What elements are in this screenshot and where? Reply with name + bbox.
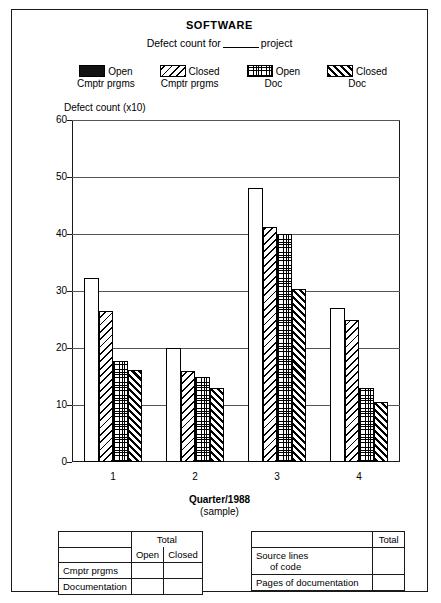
legend-sublabel-3: Doc <box>348 78 366 89</box>
plot-wrapper: 0102030405060 1234 <box>72 120 400 462</box>
bar-open-doc-q2[interactable] <box>195 377 210 463</box>
table-row-header-subcols: Open Closed <box>59 547 203 563</box>
x-tick-label-4: 4 <box>330 471 388 482</box>
chart-page-frame: SOFTWARE Defect count forproject Open Cm… <box>11 9 428 592</box>
bar-closed-doc-q4[interactable] <box>374 402 389 462</box>
legend-sublabel-2: Doc <box>264 78 282 89</box>
x-tick-label-1: 1 <box>84 471 142 482</box>
table-row-header-total: Total <box>59 532 203 548</box>
x-axis-sublabel: (sample) <box>12 506 427 517</box>
legend-sublabel-1: Cmptr prgms <box>161 78 219 89</box>
bar-group-quarter-1: 1 <box>84 120 142 462</box>
bar-group-quarter-3: 3 <box>248 120 306 462</box>
y-tick-label-50: 50 <box>56 172 67 182</box>
legend-sublabel-0: Cmptr prgms <box>77 78 135 89</box>
chart-title: SOFTWARE <box>12 19 427 31</box>
x-tick-label-3: 3 <box>248 471 306 482</box>
y-tick-label-20: 20 <box>56 343 67 353</box>
bar-open-doc-q3[interactable] <box>277 234 292 462</box>
summary-table-size: Total Source lines of code Pages of docu… <box>251 531 405 591</box>
y-tick-label-40: 40 <box>56 229 67 239</box>
table-right-row-0-label: Source lines of code <box>252 548 373 575</box>
chart-header: SOFTWARE Defect count forproject <box>12 19 427 49</box>
bar-open-cmptr-prgms-q3[interactable] <box>248 188 263 462</box>
y-tick-label-10: 10 <box>56 400 67 410</box>
bar-open-doc-q1[interactable] <box>113 361 128 462</box>
legend-label-2: Open <box>276 66 300 77</box>
table-right-row-1-total[interactable] <box>373 575 405 591</box>
legend-item-open-doc: Open Doc <box>232 65 316 89</box>
legend-swatch-closed-doc <box>327 65 353 77</box>
table-left-corner-cell <box>59 532 132 548</box>
table-left-row-1-closed[interactable] <box>164 579 203 595</box>
summary-table-programs: Total Open Closed Cmptr prgms Documentat… <box>58 531 203 595</box>
chart-subtitle: Defect count forproject <box>12 37 427 49</box>
chart-legend: Open Cmptr prgms Closed Cmptr prgms Open… <box>64 65 399 89</box>
chart-subtitle-before: Defect count for <box>147 37 221 49</box>
legend-item-open-cmptr-prgms: Open Cmptr prgms <box>64 65 148 89</box>
bar-closed-doc-q2[interactable] <box>210 388 225 462</box>
table-left-row-0-closed[interactable] <box>164 563 203 579</box>
legend-label-1: Closed <box>189 66 220 77</box>
x-tick-label-2: 2 <box>166 471 224 482</box>
y-tick-label-0: 0 <box>61 457 67 467</box>
legend-item-closed-doc: Closed Doc <box>315 65 399 89</box>
bar-closed-cmptr-prgms-q4[interactable] <box>345 320 360 463</box>
legend-label-3: Closed <box>356 66 387 77</box>
legend-swatch-open-cmptr-prgms <box>79 65 105 77</box>
table-left-corner-cell-2 <box>59 547 132 563</box>
table-row: Documentation <box>59 579 203 595</box>
blank-fill-line <box>223 47 259 48</box>
bar-closed-doc-q3[interactable] <box>292 289 307 462</box>
table-right-row-0-label-line2: of code <box>256 561 368 572</box>
bar-closed-doc-q1[interactable] <box>128 370 143 462</box>
table-left-col-open: Open <box>131 547 163 563</box>
y-axis-label: Defect count (x10) <box>64 102 146 113</box>
table-left-row-0-label: Cmptr prgms <box>59 563 132 579</box>
bar-group-quarter-2: 2 <box>166 120 224 462</box>
legend-swatch-closed-cmptr-prgms <box>160 65 186 77</box>
bar-open-cmptr-prgms-q4[interactable] <box>330 308 345 462</box>
bar-closed-cmptr-prgms-q2[interactable] <box>181 371 196 462</box>
bar-open-cmptr-prgms-q2[interactable] <box>166 348 181 462</box>
table-left-row-1-label: Documentation <box>59 579 132 595</box>
table-row-header-total: Total <box>252 532 405 548</box>
legend-item-closed-cmptr-prgms: Closed Cmptr prgms <box>148 65 232 89</box>
table-left-row-1-open[interactable] <box>131 579 163 595</box>
table-right-row-0-label-line1: Source lines <box>256 550 368 561</box>
bar-open-doc-q4[interactable] <box>359 388 374 462</box>
bar-closed-cmptr-prgms-q1[interactable] <box>99 311 114 462</box>
table-left-row-0-open[interactable] <box>131 563 163 579</box>
bars-layer: 1234 <box>72 120 400 462</box>
bar-closed-cmptr-prgms-q3[interactable] <box>263 227 278 462</box>
table-right-row-0-total[interactable] <box>373 548 405 575</box>
table-left-total-header: Total <box>131 532 202 548</box>
legend-label-0: Open <box>108 66 132 77</box>
table-right-corner-cell <box>252 532 373 548</box>
table-right-total-header: Total <box>373 532 405 548</box>
y-tick-label-30: 30 <box>56 286 67 296</box>
chart-subtitle-after: project <box>261 37 293 49</box>
legend-swatch-open-doc <box>247 65 273 77</box>
table-row: Cmptr prgms <box>59 563 203 579</box>
bar-group-quarter-4: 4 <box>330 120 388 462</box>
table-right-row-1-label: Pages of documentation <box>252 575 373 591</box>
y-tick-label-60: 60 <box>56 115 67 125</box>
table-row: Pages of documentation <box>252 575 405 591</box>
x-axis-label: Quarter/1988 <box>12 494 427 505</box>
table-row: Source lines of code <box>252 548 405 575</box>
table-left-col-closed: Closed <box>164 547 203 563</box>
bar-open-cmptr-prgms-q1[interactable] <box>84 278 99 462</box>
